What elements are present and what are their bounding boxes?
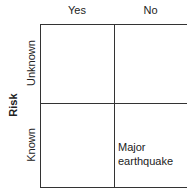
row-header-unknown: Unknown bbox=[25, 23, 39, 103]
row-header-known: Known bbox=[25, 105, 39, 185]
column-header-yes: Yes bbox=[40, 4, 114, 16]
cell-known-no-line1: Major bbox=[118, 140, 173, 154]
cell-known-no-line2: earthquake bbox=[118, 154, 173, 168]
cell-known-no: Major earthquake bbox=[118, 140, 173, 168]
grid-left-line bbox=[40, 24, 41, 188]
column-header-no: No bbox=[114, 4, 187, 16]
row-axis-label: Risk bbox=[7, 93, 21, 117]
grid-center-line bbox=[114, 24, 115, 188]
